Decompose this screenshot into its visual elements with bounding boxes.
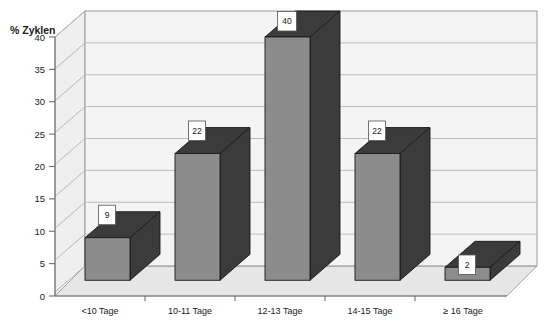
chart-container: 0 5 10 15 20 25 30 35 40 % Zyklen 9 bbox=[0, 0, 547, 329]
data-label-value: 22 bbox=[372, 126, 382, 136]
y-tick-label-20: 20 bbox=[34, 161, 45, 172]
x-tick-label-1: 10-11 Tage bbox=[168, 306, 212, 316]
bar-group-1[interactable]: 22 bbox=[175, 121, 250, 280]
x-axis-ticks bbox=[145, 296, 415, 301]
bar-chart-3d: 0 5 10 15 20 25 30 35 40 % Zyklen 9 bbox=[0, 0, 547, 329]
bar-group-2[interactable]: 40 bbox=[265, 11, 340, 280]
y-tick-label-10: 10 bbox=[34, 226, 45, 237]
data-label-4: 2 bbox=[459, 255, 476, 275]
y-tick-label-25: 25 bbox=[34, 129, 45, 140]
x-tick-label-4: ≥ 16 Tage bbox=[443, 306, 482, 316]
data-label-2: 40 bbox=[278, 12, 297, 32]
data-label-1: 22 bbox=[189, 121, 206, 141]
plot-side-wall bbox=[55, 11, 85, 296]
bar-side-face bbox=[400, 128, 430, 281]
data-label-value: 9 bbox=[105, 210, 110, 220]
y-tick-label-30: 30 bbox=[34, 96, 45, 107]
bar-group-3[interactable]: 22 bbox=[355, 121, 430, 280]
x-tick-label-3: 14-15 Tage bbox=[348, 306, 393, 316]
bar-front-face bbox=[355, 154, 400, 281]
x-tick-label-2: 12-13 Tage bbox=[258, 306, 303, 316]
y-axis-title: % Zyklen bbox=[10, 24, 56, 36]
bar-side-face bbox=[220, 128, 250, 281]
x-tick-label-0: <10 Tage bbox=[81, 306, 118, 316]
bar-front-face bbox=[175, 154, 220, 281]
y-axis-ticks bbox=[49, 37, 55, 296]
bar-side-face bbox=[310, 11, 340, 280]
data-label-3: 22 bbox=[369, 121, 386, 141]
data-label-value: 22 bbox=[192, 126, 202, 136]
data-label-value: 2 bbox=[465, 260, 470, 270]
x-axis-tick-labels: <10 Tage 10-11 Tage 12-13 Tage 14-15 Tag… bbox=[81, 306, 482, 316]
bar-front-face bbox=[85, 238, 130, 281]
y-tick-label-15: 15 bbox=[34, 193, 45, 204]
y-tick-label-35: 35 bbox=[34, 64, 45, 75]
bar-front-face bbox=[265, 37, 310, 280]
data-label-value: 40 bbox=[282, 16, 292, 26]
y-tick-label-5: 5 bbox=[40, 258, 45, 269]
data-label-0: 9 bbox=[99, 205, 116, 225]
y-axis-tick-labels: 0 5 10 15 20 25 30 35 40 bbox=[34, 32, 45, 302]
y-tick-label-0: 0 bbox=[40, 291, 45, 302]
